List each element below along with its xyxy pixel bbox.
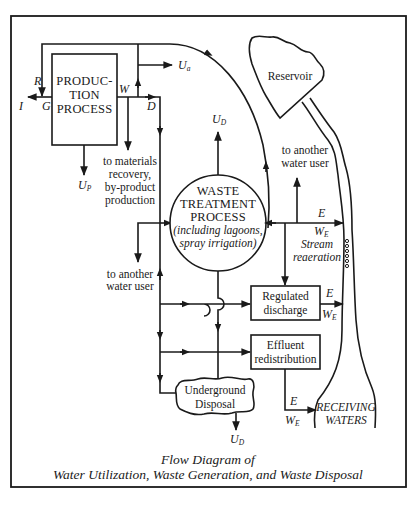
receiving-waters-label-2: WATERS — [325, 414, 367, 426]
reservoir-label: Reservoir — [268, 70, 313, 82]
regulated-discharge-label-2: discharge — [264, 304, 308, 317]
regulated-discharge-inlet — [160, 304, 250, 316]
production-process-label-3: PROCESS — [57, 102, 113, 116]
production-process-label-1: PRODUC- — [56, 74, 112, 88]
flow-diagram: PRODUC- TION PROCESS R I G W D to materi… — [0, 0, 416, 510]
distribution-main-line — [160, 135, 178, 393]
waste-treatment-label-3: PROCESS — [190, 210, 246, 224]
symbol-u-d-bottom: UD — [230, 432, 245, 447]
receiving-waters-label-1: RECEIVING — [315, 401, 376, 413]
another-user-left-line — [138, 223, 160, 262]
symbol-w: W — [119, 82, 130, 96]
symbol-r: R — [33, 74, 42, 88]
another-user-left-label-1: to another — [107, 268, 153, 280]
symbol-u-d-top: UD — [212, 112, 227, 127]
symbol-u-a: Ua — [178, 58, 191, 73]
underground-disposal-label-1: Underground — [184, 384, 245, 397]
symbol-e-stream: E — [317, 206, 326, 220]
symbol-e-effluent: E — [289, 394, 298, 408]
waste-treatment-label-4: (including lagoons, — [173, 224, 263, 237]
symbol-g: G — [42, 99, 51, 113]
symbol-d: D — [146, 99, 156, 113]
symbol-w-e-stream: WE — [314, 224, 329, 239]
symbol-w-e-regulated: WE — [322, 307, 337, 322]
waste-treatment-label-2: TREATMENT — [180, 197, 256, 211]
figure-caption-line-2: Water Utilization, Waste Generation, and… — [53, 467, 363, 482]
waste-treatment-label-1: WASTE — [197, 184, 240, 198]
symbol-e-regulated: E — [325, 286, 334, 300]
symbol-w-e-effluent: WE — [285, 413, 300, 428]
waste-treatment-label-5: spray irrigation) — [180, 237, 257, 250]
effluent-redistribution-label-1: Effluent — [267, 339, 305, 351]
figure-caption-line-1: Flow Diagram of — [160, 452, 257, 467]
another-user-right-label-1: to another — [282, 144, 328, 156]
underground-disposal-label-2: Disposal — [195, 398, 235, 411]
effluent-redistribution-label-2: redistribution — [255, 353, 317, 365]
production-process-label-2: TION — [69, 88, 100, 102]
materials-recovery-label-4: production — [105, 194, 155, 207]
another-user-left-label-2: water user — [106, 280, 154, 292]
symbol-u-p: UP — [78, 178, 92, 193]
materials-recovery-label-2: recovery, — [109, 168, 151, 181]
regulated-discharge-label-1: Regulated — [262, 290, 309, 303]
another-user-right-label-2: water user — [281, 157, 329, 169]
stream-reaeration-label-1: Stream — [301, 238, 333, 250]
materials-recovery-label-3: by-product — [105, 181, 156, 194]
stream-reaeration-bubbles — [345, 239, 348, 267]
treatment-to-underground-line — [218, 271, 224, 380]
stream-reaeration-label-2: reaeration — [293, 251, 341, 263]
materials-recovery-label-1: to materials — [103, 155, 157, 167]
symbol-i: I — [18, 99, 24, 113]
